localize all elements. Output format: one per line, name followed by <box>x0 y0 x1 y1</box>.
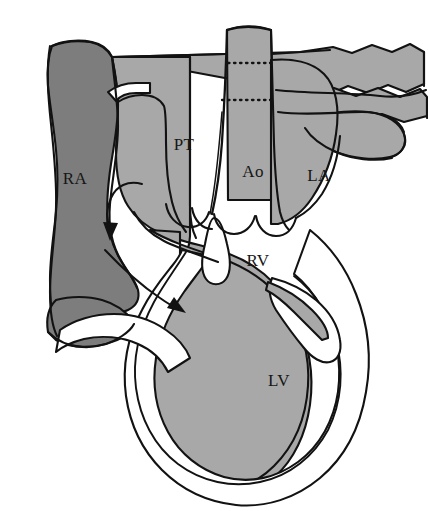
label-RV: RV <box>246 251 269 270</box>
heart-diagram-figure: RA PT Ao LA RV LV <box>0 0 428 511</box>
label-RA: RA <box>63 169 88 188</box>
label-LV: LV <box>268 371 290 390</box>
heart-anatomy-illustration: RA PT Ao LA RV LV <box>0 0 428 511</box>
label-Ao: Ao <box>242 162 264 181</box>
label-LA: LA <box>307 166 331 185</box>
label-PT: PT <box>174 135 195 154</box>
